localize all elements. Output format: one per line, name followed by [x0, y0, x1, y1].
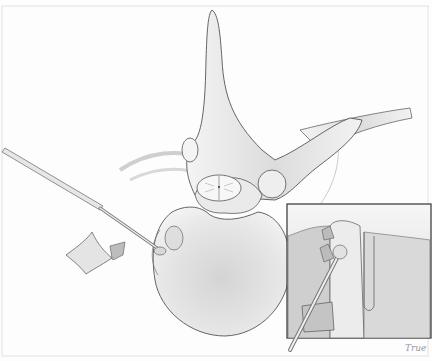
- spinal-cord: [197, 175, 241, 201]
- osteophyte: [165, 226, 183, 250]
- facet-joint: [258, 170, 286, 198]
- cut-lamina: [182, 138, 198, 162]
- artist-signature: True: [405, 343, 426, 353]
- medical-illustration: True: [0, 0, 432, 361]
- magnified-inset: [287, 204, 431, 350]
- tissue-flap: [66, 232, 125, 274]
- illustration-svg: [0, 0, 432, 361]
- probe-instrument: [2, 148, 166, 255]
